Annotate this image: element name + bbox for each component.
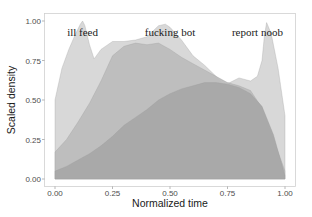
annotation-label: ill feed xyxy=(67,26,98,38)
y-tick-label: 0.00 xyxy=(25,175,41,184)
x-tick-label: 1.00 xyxy=(277,189,293,198)
x-axis-title: Normalized time xyxy=(132,197,208,209)
y-tick-label: 0.25 xyxy=(25,136,41,145)
x-tick-label: 0.75 xyxy=(220,189,236,198)
density-chart: 0.000.250.500.751.00 0.000.250.500.751.0… xyxy=(0,0,312,217)
annotation-label: report noob xyxy=(232,26,284,38)
y-tick-label: 0.50 xyxy=(25,96,41,105)
annotation-label: fucking bot xyxy=(145,26,195,38)
y-tick-label: 0.75 xyxy=(25,57,41,66)
y-tick-label: 1.00 xyxy=(25,17,41,26)
y-axis-title: Scaled density xyxy=(5,65,17,134)
x-tick-label: 0.25 xyxy=(105,189,121,198)
x-tick-label: 0.00 xyxy=(47,189,63,198)
